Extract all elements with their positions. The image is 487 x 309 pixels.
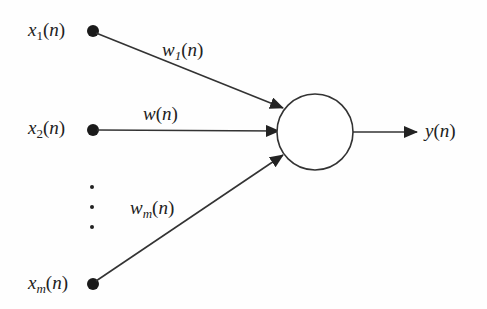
synapse-arrow-m bbox=[96, 155, 283, 281]
diagram-canvas bbox=[0, 0, 487, 309]
output-label: y(n) bbox=[425, 121, 456, 140]
weight-label-1: w1(n) bbox=[162, 40, 203, 62]
input-label-m: xm(n) bbox=[28, 273, 68, 295]
synapse-arrow-2 bbox=[97, 130, 279, 131]
input-label-2: x2(n) bbox=[28, 118, 65, 140]
ellipsis-dot bbox=[90, 205, 94, 209]
weight-label-m: wm(n) bbox=[130, 198, 174, 220]
neuron-node bbox=[277, 94, 353, 170]
ellipsis-dot bbox=[90, 225, 94, 229]
ellipsis-dot bbox=[90, 185, 94, 189]
input-label-1: x1(n) bbox=[28, 20, 65, 42]
weight-label-2: w(n) bbox=[143, 104, 178, 123]
input-node-1 bbox=[87, 25, 99, 37]
neuron-diagram: x1(n) x2(n) xm(n) w1(n) w(n) wm(n) y(n) bbox=[0, 0, 487, 309]
